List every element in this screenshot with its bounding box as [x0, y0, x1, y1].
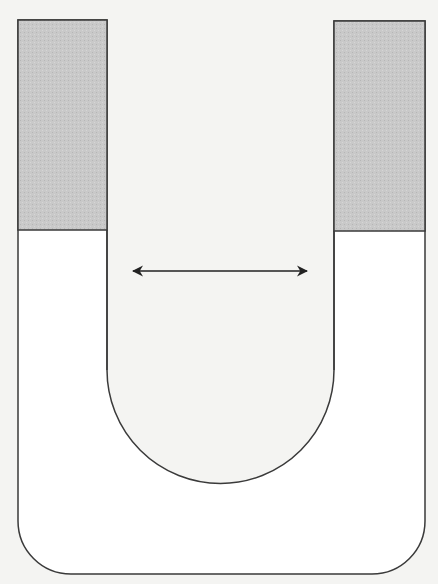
- u-tube-diagram: [0, 0, 438, 584]
- left-arm-fluid: [18, 20, 107, 230]
- right-arm-fluid: [334, 21, 425, 231]
